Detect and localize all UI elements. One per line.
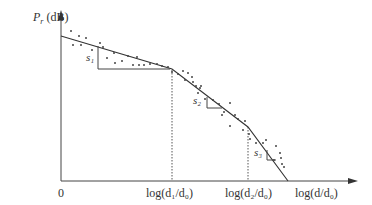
x-tick-d2: log(d₂/d₀)	[225, 186, 272, 201]
y-axis-label: Pr (dB)	[33, 10, 68, 26]
slope-label-s3: s₃	[254, 146, 262, 158]
slope-triangle-s2	[207, 97, 222, 108]
y-axis-subscript: r	[40, 17, 43, 26]
x-tick-d1: log(d₁/d₀)	[146, 186, 193, 201]
x-axis-arrow-icon	[348, 178, 358, 184]
slope-label-s2: s₂	[193, 94, 201, 106]
pathloss-chart: Pr (dB) 0 log(d₁/d₀) log(d₂/d₀) log(d/d₀…	[0, 0, 372, 205]
chart-canvas	[0, 0, 372, 205]
x-axis-label: log(d/d₀)	[295, 186, 338, 201]
piecewise-model-line	[61, 36, 288, 181]
measurement-points	[70, 30, 285, 168]
y-axis-unit: (dB)	[46, 10, 68, 24]
x-tick-zero: 0	[58, 186, 64, 201]
slope-label-s1: s₁	[86, 51, 94, 63]
